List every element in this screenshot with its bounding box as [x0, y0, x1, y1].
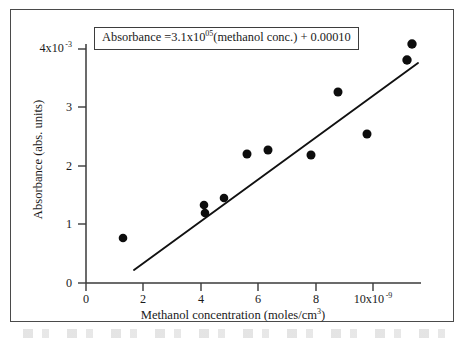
equation-annotation-box: Absorbance =3.1x1005(methanol conc.) + 0…	[94, 27, 359, 50]
y-axis-title: Absorbance (abs. units)	[31, 60, 46, 260]
x-tick-label-2: 2	[123, 293, 163, 305]
scan-artifact-row	[16, 329, 450, 338]
figure-container: Absorbance =3.1x1005(methanol conc.) + 0…	[0, 0, 466, 342]
y-tick-label-4: 4x10-3	[6, 42, 72, 54]
x-tick-label-0: 0	[66, 293, 106, 305]
x-axis-title-suffix: )	[321, 308, 325, 322]
x-tick-sup: -9	[386, 291, 393, 300]
y-tick-text: 4x10	[39, 41, 63, 55]
x-axis-title-text: Methanol concentration (moles/cm	[141, 308, 317, 322]
figure-border	[10, 9, 454, 322]
x-tick-label-4: 4	[181, 293, 221, 305]
equation-prefix: Absorbance =3.1x10	[102, 30, 205, 44]
x-axis-title: Methanol concentration (moles/cm3)	[0, 308, 466, 323]
x-tick-label-6: 6	[238, 293, 278, 305]
x-tick-text: 10x10	[354, 292, 384, 306]
x-tick-label-10: 10x10-9	[340, 293, 406, 305]
y-tick-label-0: 0	[6, 277, 72, 289]
equation-suffix: (methanol conc.) + 0.00010	[213, 30, 350, 44]
y-tick-sup: -3	[65, 40, 72, 49]
x-tick-label-8: 8	[296, 293, 336, 305]
